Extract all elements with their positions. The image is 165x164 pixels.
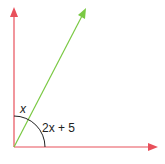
angle-diagram: x 2x + 5 — [0, 0, 165, 164]
label-2x-plus-5: 2x + 5 — [42, 121, 75, 135]
angle-arc — [14, 116, 45, 147]
arrowhead-right-icon — [148, 143, 158, 151]
vertical-arrow — [10, 7, 18, 147]
horizontal-arrow — [14, 143, 158, 151]
label-x: x — [19, 102, 27, 116]
arrowhead-up-icon — [10, 7, 18, 17]
arrowhead-diagonal-icon — [78, 8, 86, 19]
